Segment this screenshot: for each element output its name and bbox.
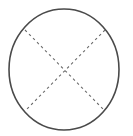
diagram-canvas (0, 0, 133, 136)
circle-chord-diagram (0, 0, 133, 136)
background-rect (0, 0, 133, 136)
